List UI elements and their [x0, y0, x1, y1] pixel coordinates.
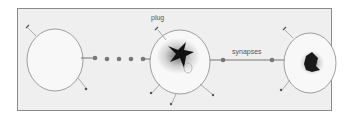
chain-dots [81, 56, 158, 62]
synapses-label: synapses [232, 48, 262, 55]
left-cell [26, 25, 87, 91]
middle-cell [150, 27, 214, 105]
neuron-diagram [0, 0, 363, 120]
synapse-connection [210, 58, 286, 63]
plug-label: plug [151, 14, 164, 21]
right-cell [280, 27, 336, 93]
